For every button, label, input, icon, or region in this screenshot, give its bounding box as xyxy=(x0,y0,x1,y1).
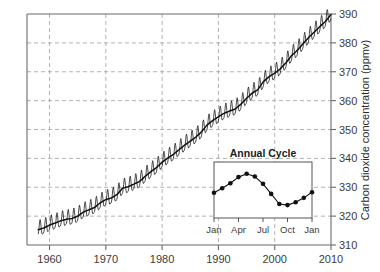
y-tick-label: 340 xyxy=(339,152,357,164)
chart-root: 310320330340350360370380390 196019701980… xyxy=(0,0,380,272)
x-tick-label: 1980 xyxy=(150,253,174,265)
inset-data-point xyxy=(302,196,307,201)
inset-data-point xyxy=(236,175,241,180)
y-axis-title: Carbon dioxide concentration (ppmv) xyxy=(359,40,371,220)
inset-data-point xyxy=(277,202,282,207)
y-tick-label: 370 xyxy=(339,66,357,78)
x-tick-label: 1990 xyxy=(206,253,230,265)
y-tick-label: 380 xyxy=(339,37,357,49)
x-tick-label: 2000 xyxy=(262,253,286,265)
inset-data-point xyxy=(253,174,258,179)
co2-keeling-curve-chart: 310320330340350360370380390 196019701980… xyxy=(0,0,380,272)
y-tick-label: 310 xyxy=(339,239,357,251)
inset-plot-frame xyxy=(214,162,312,218)
inset-x-tick-label: Oct xyxy=(280,224,295,235)
x-tick-label: 1960 xyxy=(37,253,61,265)
inset-data-point xyxy=(310,190,315,195)
inset-x-tick-label: Apr xyxy=(231,224,246,235)
inset-x-tick-label: Jan xyxy=(206,224,221,235)
inset-data-point xyxy=(261,182,266,187)
y-tick-label: 390 xyxy=(339,8,357,20)
inset-data-point xyxy=(228,181,233,186)
inset-title: Annual Cycle xyxy=(230,147,297,159)
inset-data-point xyxy=(285,203,290,208)
inset-data-point xyxy=(212,191,217,196)
y-tick-label: 320 xyxy=(339,210,357,222)
inset-data-point xyxy=(244,171,249,176)
inset-data-point xyxy=(293,200,298,205)
x-tick-label: 1970 xyxy=(94,253,118,265)
y-tick-label: 330 xyxy=(339,181,357,193)
y-tick-label: 350 xyxy=(339,124,357,136)
y-tick-label: 360 xyxy=(339,95,357,107)
y-axis-tick-labels: 310320330340350360370380390 xyxy=(339,8,357,251)
inset-data-point xyxy=(220,186,225,191)
x-tick-label: 2010 xyxy=(319,253,343,265)
inset-x-tick-label: Jul xyxy=(257,224,269,235)
chart-background xyxy=(0,0,380,272)
inset-data-point xyxy=(269,192,274,197)
inset-x-tick-label: Jan xyxy=(304,224,319,235)
